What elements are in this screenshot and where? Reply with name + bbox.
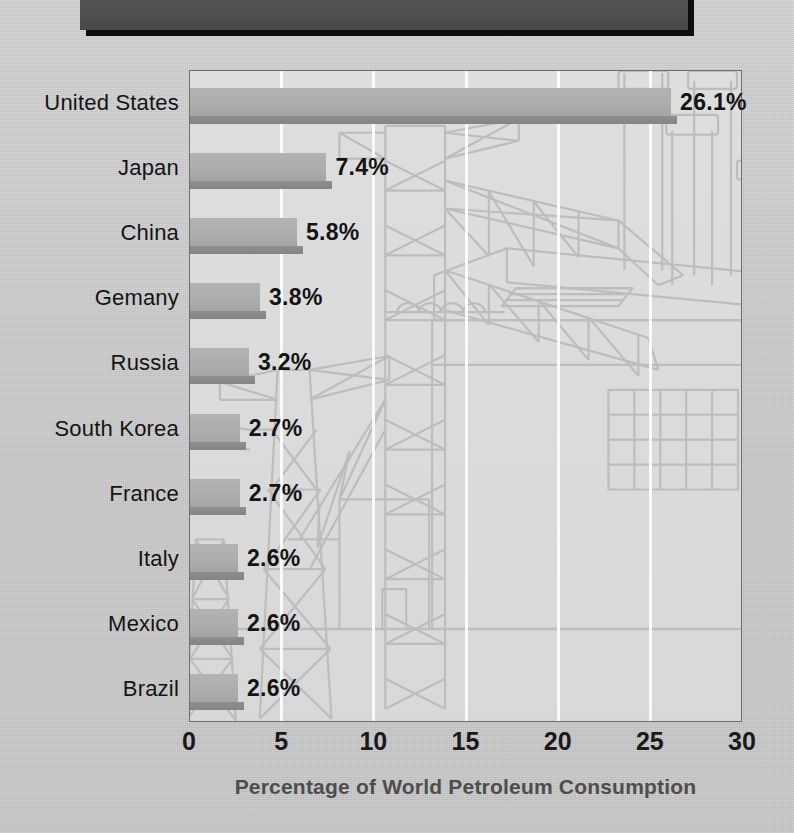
bar-base-shadow bbox=[190, 442, 246, 450]
value-label: 3.2% bbox=[258, 349, 312, 376]
bar-body bbox=[190, 218, 297, 246]
value-label: 26.1% bbox=[680, 89, 747, 116]
category-label: Brazil bbox=[123, 676, 179, 702]
bar-base-shadow bbox=[190, 116, 677, 124]
bar-body bbox=[190, 414, 240, 442]
gridline-25 bbox=[649, 71, 652, 721]
bar-base-shadow bbox=[190, 702, 244, 710]
category-label: United States bbox=[44, 90, 179, 116]
bar-body bbox=[190, 153, 326, 181]
x-tick-label: 0 bbox=[182, 727, 196, 756]
category-label: Russia bbox=[111, 350, 179, 376]
category-label: China bbox=[121, 220, 179, 246]
value-label: 2.6% bbox=[247, 675, 301, 702]
bar-chart: United StatesJapanChinaGemanyRussiaSouth… bbox=[0, 0, 794, 833]
category-label: Italy bbox=[138, 546, 179, 572]
x-tick-label: 20 bbox=[544, 727, 572, 756]
bar-base-shadow bbox=[190, 376, 255, 384]
gridline-15 bbox=[465, 71, 468, 721]
bar-base-shadow bbox=[190, 637, 244, 645]
x-tick-label: 25 bbox=[636, 727, 664, 756]
value-label: 5.8% bbox=[306, 219, 360, 246]
value-label: 2.7% bbox=[249, 415, 303, 442]
bar-body bbox=[190, 544, 238, 572]
x-tick-label: 15 bbox=[452, 727, 480, 756]
category-label: South Korea bbox=[54, 416, 179, 442]
bar-body bbox=[190, 348, 249, 376]
x-tick-label: 5 bbox=[274, 727, 288, 756]
value-label: 7.4% bbox=[335, 154, 389, 181]
value-label: 2.7% bbox=[249, 480, 303, 507]
bar-body bbox=[190, 479, 240, 507]
value-label: 2.6% bbox=[247, 545, 301, 572]
bar-body bbox=[190, 674, 238, 702]
value-label: 2.6% bbox=[247, 610, 301, 637]
gridline-20 bbox=[557, 71, 560, 721]
category-label: France bbox=[109, 481, 179, 507]
bar-body bbox=[190, 283, 260, 311]
bar-base-shadow bbox=[190, 507, 246, 515]
bar-base-shadow bbox=[190, 572, 244, 580]
bar-body bbox=[190, 88, 671, 116]
bar-base-shadow bbox=[190, 311, 266, 319]
bar-base-shadow bbox=[190, 181, 332, 189]
value-label: 3.8% bbox=[269, 284, 323, 311]
x-axis-title: Percentage of World Petroleum Consumptio… bbox=[189, 775, 742, 799]
category-label: Gemany bbox=[95, 285, 179, 311]
x-tick-label: 10 bbox=[359, 727, 387, 756]
x-tick-label: 30 bbox=[728, 727, 756, 756]
category-label: Mexico bbox=[108, 611, 179, 637]
bar-body bbox=[190, 609, 238, 637]
category-label: Japan bbox=[118, 155, 179, 181]
bar-base-shadow bbox=[190, 246, 303, 254]
